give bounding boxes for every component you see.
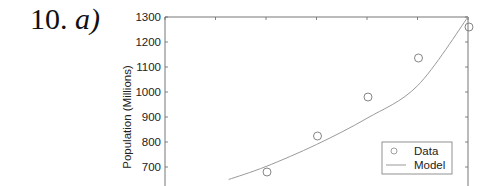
y-tick-label: 1300 [135, 11, 161, 23]
population-chart: 7008009001000110012001300 Population (Mi… [0, 0, 495, 186]
y-axis-label: Population (Millions) [121, 65, 133, 169]
legend: Data Model [382, 142, 452, 174]
data-point-marker [263, 168, 271, 176]
legend-item-model: Model [414, 159, 445, 171]
y-tick-label: 1100 [136, 61, 161, 73]
y-tick-label: 1000 [135, 86, 161, 98]
y-tick-label: 700 [142, 161, 161, 173]
data-point-marker [415, 54, 423, 62]
data-point-marker [364, 93, 372, 101]
data-point-marker [314, 132, 322, 140]
legend-item-data: Data [414, 145, 439, 157]
y-tick-label: 800 [142, 136, 161, 148]
y-tick-label: 1200 [135, 36, 161, 48]
data-point-marker [465, 23, 473, 31]
y-tick-labels: 7008009001000110012001300 [135, 11, 161, 173]
y-tick-label: 900 [142, 111, 161, 123]
